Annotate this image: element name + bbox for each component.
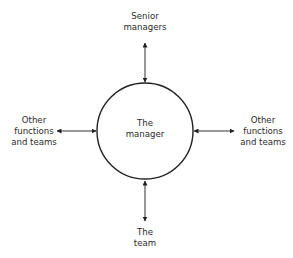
center-label-line-1: The <box>126 118 165 129</box>
bottom-node-label: The team <box>134 227 156 249</box>
left-label-line-3: and teams <box>11 137 57 148</box>
left-node-label: Other functions and teams <box>11 115 57 148</box>
bottom-label-line-2: team <box>134 238 156 249</box>
top-label-line-2: managers <box>123 22 166 33</box>
left-label-line-1: Other <box>11 115 57 126</box>
left-label-line-2: functions <box>11 126 57 137</box>
center-node-label: The manager <box>126 118 165 140</box>
top-node-label: Senior managers <box>123 11 166 33</box>
top-label-line-1: Senior <box>123 11 166 22</box>
right-label-line-3: and teams <box>240 137 286 148</box>
right-label-line-2: functions <box>240 126 286 137</box>
bottom-label-line-1: The <box>134 227 156 238</box>
center-label-line-2: manager <box>126 129 165 140</box>
diagram-canvas: The manager Senior managers Other functi… <box>0 0 293 258</box>
right-label-line-1: Other <box>240 115 286 126</box>
right-node-label: Other functions and teams <box>240 115 286 148</box>
